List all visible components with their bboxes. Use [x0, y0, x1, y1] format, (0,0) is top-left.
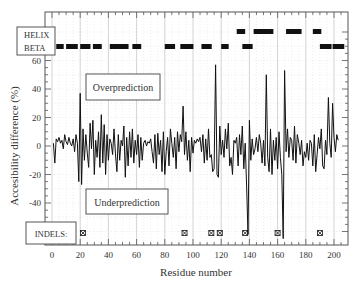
x-tick-label: 80: [160, 250, 170, 260]
indel-marker-icon: [243, 231, 248, 236]
indel-marker-icon: [81, 231, 86, 236]
x-tick-label: 140: [243, 250, 257, 260]
indel-marker-icon: [209, 231, 214, 236]
y-tick-label: 0: [37, 141, 42, 151]
helix-bar: [286, 29, 302, 34]
underprediction-label: Underprediction: [94, 197, 160, 208]
beta-bar: [80, 44, 90, 49]
beta-bar: [66, 44, 78, 49]
beta-bar: [201, 44, 211, 49]
y-tick-label: -40: [29, 198, 41, 208]
x-tick-label: 120: [214, 250, 228, 260]
overprediction-annotation: Overprediction: [86, 74, 160, 100]
beta-bar: [180, 44, 193, 49]
y-tick-label: 20: [32, 113, 42, 123]
x-tick-label: 20: [76, 250, 86, 260]
x-tick-labels: 020406080100120140160180200: [50, 250, 342, 260]
x-tick-label: 100: [186, 250, 200, 260]
beta-bar: [110, 44, 129, 49]
x-tick-label: 200: [327, 250, 341, 260]
y-tick-label: 60: [32, 56, 42, 66]
beta-bar: [56, 44, 63, 49]
beta-bar: [93, 44, 102, 49]
beta-bar: [165, 44, 175, 49]
beta-bar: [132, 44, 141, 49]
x-axis-label: Residue number: [160, 266, 232, 278]
helix-bar: [254, 29, 274, 34]
indels-label: INDELS:: [35, 229, 68, 239]
x-tick-label: 40: [104, 250, 114, 260]
beta-label: BETA: [24, 43, 46, 53]
indels-legend: INDELS:: [26, 222, 76, 244]
helix-bar: [313, 29, 321, 34]
y-tick-labels: -40-200204060: [29, 56, 42, 209]
x-tick-label: 180: [299, 250, 313, 260]
x-tick-label: 0: [50, 250, 55, 260]
accessibility-chart: 020406080100120140160180200 -40-20020406…: [0, 0, 359, 290]
beta-bar: [242, 44, 252, 49]
underprediction-annotation: Underprediction: [86, 189, 168, 214]
y-tick-label: 40: [32, 84, 42, 94]
beta-bar: [333, 44, 345, 49]
beta-bar: [221, 44, 228, 49]
helix-label: HELIX: [24, 30, 50, 40]
indel-marker-icon: [182, 231, 187, 236]
helix-bar: [237, 29, 245, 34]
y-tick-label: -20: [29, 170, 41, 180]
beta-bar: [320, 44, 332, 49]
x-tick-label: 160: [271, 250, 285, 260]
secondary-structure-legend: HELIX BETA: [17, 27, 55, 55]
overprediction-label: Overprediction: [93, 82, 154, 93]
y-axis-label: Accesibility difference (%): [8, 86, 21, 206]
x-tick-label: 60: [132, 250, 142, 260]
